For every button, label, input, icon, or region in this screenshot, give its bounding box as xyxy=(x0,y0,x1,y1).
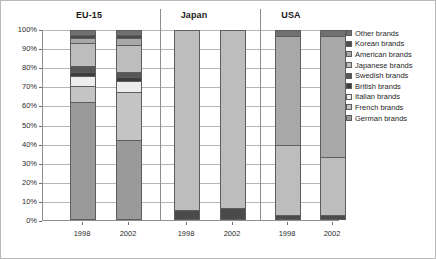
bar-japan-1998[interactable] xyxy=(174,30,200,220)
group-title-japan: Japan xyxy=(164,10,224,20)
x-tick-mark xyxy=(332,222,333,225)
legend-swatch-icon xyxy=(346,73,352,79)
stacked-column-chart: EU-15JapanUSA 100%90%80%70%60%50%40%30%2… xyxy=(0,0,436,259)
bar-eu-15-2002[interactable] xyxy=(116,30,142,220)
legend-label: Japanese brands xyxy=(355,61,413,70)
legend-swatch-icon xyxy=(346,30,352,36)
legend-item-american-brands[interactable]: American brands xyxy=(346,49,434,60)
y-tick-label: 80% xyxy=(3,64,37,72)
legend-label: Swedish brands xyxy=(355,71,408,80)
segment-german-brands xyxy=(71,103,95,220)
y-tick-label: 20% xyxy=(3,179,37,187)
legend-item-german-brands[interactable]: German brands xyxy=(346,113,434,124)
segment-japanese-brands xyxy=(117,46,141,72)
legend-swatch-icon xyxy=(346,115,352,121)
y-tick-label: 100% xyxy=(3,26,37,34)
legend-label: French brands xyxy=(355,103,403,112)
bar-eu-15-1998[interactable] xyxy=(70,30,96,220)
x-tick-label: 1998 xyxy=(267,229,307,238)
segment-french-brands xyxy=(117,93,141,140)
x-tick-label: 1998 xyxy=(62,229,102,238)
group-title-eu-15: EU-15 xyxy=(59,10,119,20)
x-tick-mark xyxy=(128,222,129,225)
legend-label: Korean brands xyxy=(355,39,404,48)
legend-label: British brands xyxy=(355,82,401,91)
segment-italian-brands xyxy=(71,77,95,86)
y-tick-label: 50% xyxy=(3,122,37,130)
y-tick-mark xyxy=(39,221,42,222)
y-tick-label: 10% xyxy=(3,198,37,206)
group-separator xyxy=(160,9,161,221)
segment-japanese-brands xyxy=(321,158,345,217)
x-tick-label: 2002 xyxy=(108,229,148,238)
segment-japanese-brands xyxy=(71,44,95,67)
segment-american-brands xyxy=(117,39,141,46)
segment-american-brands xyxy=(321,37,345,158)
group-title-usa: USA xyxy=(261,10,321,20)
bar-japan-2002[interactable] xyxy=(220,30,246,220)
segment-american-brands xyxy=(276,37,300,147)
legend-item-korean-brands[interactable]: Korean brands xyxy=(346,39,434,50)
x-tick-label: 1998 xyxy=(166,229,206,238)
x-tick-mark xyxy=(82,222,83,225)
legend-item-italian-brands[interactable]: Italian brands xyxy=(346,92,434,103)
legend-label: German brands xyxy=(355,114,407,123)
bar-usa-1998[interactable] xyxy=(275,30,301,220)
segment-korean-brands xyxy=(276,216,300,220)
x-tick-mark xyxy=(186,222,187,225)
x-tick-label: 2002 xyxy=(212,229,252,238)
chart-legend: Other brandsKorean brandsAmerican brands… xyxy=(346,28,434,123)
legend-label: Other brands xyxy=(355,29,399,38)
legend-swatch-icon xyxy=(346,83,352,89)
y-tick-label: 30% xyxy=(3,160,37,168)
legend-item-french-brands[interactable]: French brands xyxy=(346,102,434,113)
legend-swatch-icon xyxy=(346,62,352,68)
legend-item-swedish-brands[interactable]: Swedish brands xyxy=(346,70,434,81)
y-tick-label: 70% xyxy=(3,83,37,91)
group-separator xyxy=(260,9,261,221)
legend-item-british-brands[interactable]: British brands xyxy=(346,81,434,92)
legend-swatch-icon xyxy=(346,51,352,57)
segment-german-brands xyxy=(117,141,141,220)
legend-swatch-icon xyxy=(346,94,352,100)
segment-italian-brands xyxy=(117,82,141,93)
segment-korean-brands xyxy=(175,211,199,220)
legend-item-japanese-brands[interactable]: Japanese brands xyxy=(346,60,434,71)
segment-japanese-brands xyxy=(221,31,245,209)
y-tick-label: 0% xyxy=(3,217,37,225)
plot-area xyxy=(42,30,339,221)
legend-label: American brands xyxy=(355,50,412,59)
x-tick-mark xyxy=(287,222,288,225)
legend-item-other-brands[interactable]: Other brands xyxy=(346,28,434,39)
segment-korean-brands xyxy=(321,216,345,220)
segment-french-brands xyxy=(71,87,95,103)
legend-swatch-icon xyxy=(346,41,352,47)
segment-japanese-brands xyxy=(175,31,199,211)
segment-japanese-brands xyxy=(276,146,300,216)
y-tick-label: 40% xyxy=(3,141,37,149)
x-tick-mark xyxy=(232,222,233,225)
bar-usa-2002[interactable] xyxy=(320,30,346,220)
legend-label: Italian brands xyxy=(355,92,400,101)
y-tick-label: 60% xyxy=(3,102,37,110)
x-tick-label: 2002 xyxy=(312,229,352,238)
legend-swatch-icon xyxy=(346,104,352,110)
segment-korean-brands xyxy=(221,209,245,220)
y-tick-label: 90% xyxy=(3,45,37,53)
